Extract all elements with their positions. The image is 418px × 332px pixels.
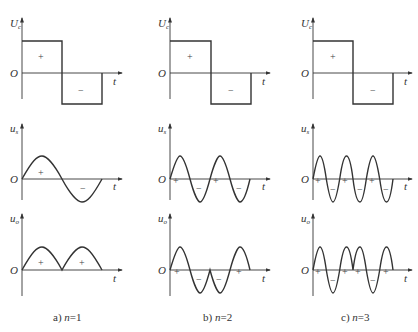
- plus-sign: +: [236, 266, 242, 277]
- origin-label: O: [158, 173, 166, 185]
- y-axis-label: Uc: [10, 17, 22, 31]
- plus-sign: +: [383, 266, 389, 277]
- x-axis-label: t: [404, 75, 408, 87]
- minus-sign: −: [78, 85, 84, 96]
- minus-sign: −: [80, 183, 86, 194]
- y-axis-label: us: [10, 122, 19, 136]
- caption-a: a) n=1: [53, 311, 82, 324]
- plus-sign: +: [174, 266, 180, 277]
- plus-sign: +: [369, 175, 375, 186]
- plus-sign: +: [187, 51, 193, 62]
- plus-sign: +: [315, 266, 321, 277]
- plus-sign: +: [315, 175, 321, 186]
- x-axis-label: t: [113, 180, 117, 192]
- y-axis-label: Uc: [158, 17, 170, 31]
- plot-us-a: us O t + −: [10, 122, 122, 202]
- plot-us-c: us O t + − + − + −: [301, 122, 412, 202]
- origin-label: O: [10, 67, 18, 79]
- origin-label: O: [10, 264, 18, 276]
- origin-label: O: [301, 67, 309, 79]
- plus-sign: +: [173, 175, 179, 186]
- square-wave: [313, 41, 393, 104]
- x-axis-label: t: [262, 75, 266, 87]
- plus-sign: +: [355, 266, 361, 277]
- plot-uo-b: uo O t + − − +: [158, 212, 270, 296]
- minus-sign: −: [330, 184, 336, 195]
- plus-sign: +: [79, 257, 85, 268]
- plot-uo-a: uo O t + +: [10, 212, 122, 296]
- plus-sign: +: [38, 167, 44, 178]
- minus-sign: −: [196, 274, 202, 285]
- minus-sign: −: [370, 85, 376, 96]
- minus-sign: −: [383, 184, 389, 195]
- minus-sign: −: [370, 275, 376, 286]
- y-axis-label: us: [301, 122, 310, 136]
- x-axis-label: t: [404, 180, 408, 192]
- origin-label: O: [10, 173, 18, 185]
- origin-label: O: [301, 173, 309, 185]
- minus-sign: −: [330, 275, 336, 286]
- minus-sign: −: [228, 85, 234, 96]
- minus-sign: −: [357, 184, 363, 195]
- output-wave: [22, 247, 102, 270]
- origin-label: O: [158, 67, 166, 79]
- origin-label: O: [301, 264, 309, 276]
- x-axis-label: t: [113, 75, 117, 87]
- minus-sign: −: [196, 183, 202, 194]
- y-axis-label: Uc: [301, 17, 313, 31]
- minus-sign: −: [236, 183, 242, 194]
- plus-sign: +: [38, 257, 44, 268]
- minus-sign: −: [216, 274, 222, 285]
- y-axis-label: us: [158, 122, 167, 136]
- y-axis-label: uo: [301, 212, 311, 226]
- y-axis-label: uo: [158, 212, 168, 226]
- column-b: Uc O t + − us O t + − + − uo O t +: [158, 17, 270, 324]
- plus-sign: +: [330, 51, 336, 62]
- column-a: Uc O t + − us O t + − uo O t + +: [10, 17, 122, 324]
- y-axis-label: uo: [10, 212, 20, 226]
- plot-us-b: us O t + − + −: [158, 122, 270, 202]
- caption-c: c) n=3: [341, 311, 370, 324]
- x-axis-label: t: [262, 272, 266, 284]
- caption-b: b) n=2: [203, 311, 232, 324]
- square-wave: [170, 41, 251, 104]
- origin-label: O: [158, 264, 166, 276]
- plot-uo-c: uo O t + − + + − +: [301, 212, 412, 296]
- x-axis-label: t: [262, 180, 266, 192]
- column-c: Uc O t + − us O t + − + − + − uo O t: [301, 17, 412, 324]
- plus-sign: +: [38, 51, 44, 62]
- x-axis-label: t: [404, 272, 408, 284]
- plus-sign: +: [342, 175, 348, 186]
- waveform-figure: Uc O t + − us O t + − uo O t + +: [0, 0, 418, 332]
- plot-uc-a: Uc O t + −: [10, 17, 122, 104]
- x-axis-label: t: [113, 272, 117, 284]
- plot-uc-c: Uc O t + −: [301, 17, 412, 104]
- square-wave: [22, 41, 102, 104]
- plus-sign: +: [213, 175, 219, 186]
- plus-sign: +: [342, 266, 348, 277]
- plot-uc-b: Uc O t + −: [158, 17, 270, 104]
